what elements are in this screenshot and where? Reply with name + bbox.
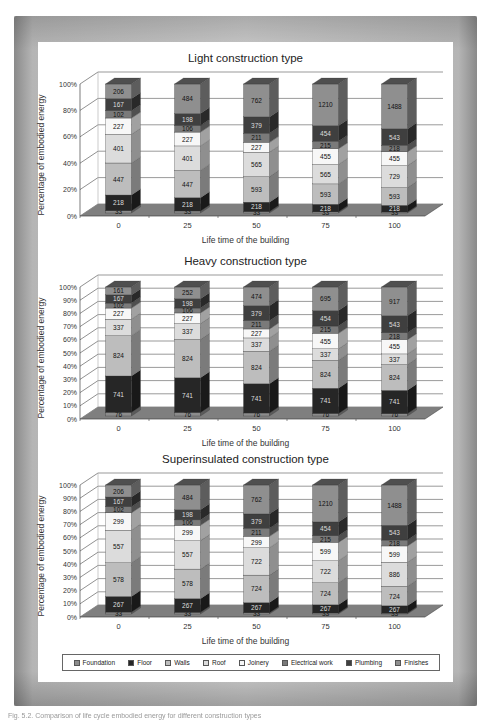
legend-swatch xyxy=(74,660,80,666)
bar-value-label: 741 xyxy=(251,395,262,402)
bar-50: 33218593565227211379762 xyxy=(244,78,279,216)
bar-value-label: 215 xyxy=(320,326,331,333)
bar-value-label: 824 xyxy=(182,355,193,362)
x-tick-label: 25 xyxy=(183,221,191,230)
y-tick-label: 90% xyxy=(63,495,77,502)
chart-legend: FoundationFloorWallsRoofJoineryElectrica… xyxy=(62,654,440,671)
chart-heavy: Heavy construction typePercentage of emb… xyxy=(38,255,453,450)
y-tick-label: 100% xyxy=(59,482,77,489)
bar-value-label: 267 xyxy=(251,604,262,611)
x-tick-label: 100 xyxy=(388,622,401,631)
bar-value-label: 218 xyxy=(389,205,400,212)
bar-100: 332677248865992185431488 xyxy=(382,479,417,617)
bar-value-label: 102 xyxy=(113,111,124,118)
bar-value-label: 267 xyxy=(320,605,331,612)
bar-value-label: 299 xyxy=(182,529,193,536)
y-tick-label: 0% xyxy=(67,614,77,621)
bar-value-label: 106 xyxy=(182,519,193,526)
bar-value-label: 454 xyxy=(320,315,331,322)
legend-swatch xyxy=(395,660,401,666)
bar-value-label: 337 xyxy=(320,351,331,358)
legend-item-plumbing: Plumbing xyxy=(346,659,382,666)
bar-value-label: 161 xyxy=(113,287,124,294)
y-tick-label: 90% xyxy=(63,297,77,304)
y-tick-label: 40% xyxy=(63,160,77,167)
bar-value-label: 724 xyxy=(389,593,400,600)
bar-value-label: 198 xyxy=(182,511,193,518)
bar-value-label: 218 xyxy=(320,205,331,212)
y-axis-label: Percentage of embodied energy xyxy=(36,293,48,423)
bar-value-label: 578 xyxy=(113,576,124,583)
bar-value-label: 543 xyxy=(389,134,400,141)
bar-100: 332185937294552185431488 xyxy=(382,78,417,216)
figure-caption: Fig. 5.2. Comparison of life cycle embod… xyxy=(8,712,261,719)
bar-value-label: 1488 xyxy=(387,103,402,110)
bar-value-label: 211 xyxy=(251,321,262,328)
bar-value-label: 267 xyxy=(113,601,124,608)
bar-75: 76741824337455215454695 xyxy=(313,281,348,418)
y-tick-label: 60% xyxy=(63,133,77,140)
bar-value-label: 474 xyxy=(251,293,262,300)
y-tick-label: 80% xyxy=(63,508,77,515)
bar-value-label: 299 xyxy=(251,539,262,546)
bar-value-label: 267 xyxy=(389,606,400,613)
bar-value-label: 1488 xyxy=(387,502,402,509)
bar-value-label: 218 xyxy=(182,201,193,208)
legend-swatch xyxy=(165,660,171,666)
y-tick-label: 0% xyxy=(67,416,77,423)
bar-value-label: 722 xyxy=(320,568,331,575)
x-tick-label: 100 xyxy=(388,424,401,433)
y-tick-label: 100% xyxy=(59,81,77,88)
chart-superinsulated: Superinsulated construction typePercenta… xyxy=(38,453,453,648)
y-axis-label: Percentage of embodied energy xyxy=(36,491,48,621)
bar-value-label: 211 xyxy=(251,134,262,141)
bar-value-label: 557 xyxy=(113,543,124,550)
legend-item-floor: Floor xyxy=(128,659,152,666)
bar-value-label: 337 xyxy=(113,324,124,331)
legend-label: Finishes xyxy=(404,659,428,666)
bar-value-label: 599 xyxy=(320,548,331,555)
bar-value-label: 218 xyxy=(389,333,400,340)
x-tick-label: 50 xyxy=(252,622,260,631)
bar-value-label: 599 xyxy=(389,551,400,558)
bar-value-label: 729 xyxy=(389,173,400,180)
chart-plot: 0%20%40%60%80%100%3321844740122710216720… xyxy=(50,66,450,241)
legend-item-joinery: Joinery xyxy=(239,659,269,666)
bar-25: 33267578557299106198484 xyxy=(175,479,210,617)
bar-value-label: 379 xyxy=(251,122,262,129)
y-tick-label: 10% xyxy=(63,600,77,607)
bar-value-label: 565 xyxy=(320,171,331,178)
legend-label: Roof xyxy=(212,659,226,666)
bar-value-label: 741 xyxy=(320,397,331,404)
legend-label: Foundation xyxy=(83,659,116,666)
bar-value-label: 722 xyxy=(251,558,262,565)
bar-100: 76741824337455218543917 xyxy=(382,281,417,418)
bar-value-label: 299 xyxy=(113,518,124,525)
bar-value-label: 267 xyxy=(182,602,193,609)
bar-0: 33267578557299102167206 xyxy=(106,479,141,617)
legend-label: Floor xyxy=(137,659,152,666)
bar-25: 76741824337227106198252 xyxy=(175,281,210,418)
bar-value-label: 578 xyxy=(182,580,193,587)
x-axis-label: Life time of the building xyxy=(38,438,453,448)
y-axis-label: Percentage of embodied energy xyxy=(36,90,48,220)
bar-value-label: 824 xyxy=(389,374,400,381)
x-axis-label: Life time of the building xyxy=(38,235,453,245)
legend-label: Electrical work xyxy=(291,659,333,666)
bar-0: 76741824337227102167161 xyxy=(106,281,141,418)
x-tick-label: 0 xyxy=(116,221,120,230)
bar-value-label: 401 xyxy=(182,155,193,162)
bar-value-label: 557 xyxy=(182,551,193,558)
x-tick-label: 100 xyxy=(388,221,401,230)
bar-value-label: 824 xyxy=(320,371,331,378)
y-tick-label: 80% xyxy=(63,310,77,317)
bar-value-label: 455 xyxy=(389,155,400,162)
x-tick-label: 25 xyxy=(183,424,191,433)
bar-value-label: 218 xyxy=(389,145,400,152)
bar-value-label: 227 xyxy=(251,144,262,151)
bar-value-label: 593 xyxy=(389,193,400,200)
bar-value-label: 218 xyxy=(251,203,262,210)
bar-value-label: 218 xyxy=(389,540,400,547)
legend-label: Walls xyxy=(174,659,190,666)
bar-value-label: 593 xyxy=(320,191,331,198)
